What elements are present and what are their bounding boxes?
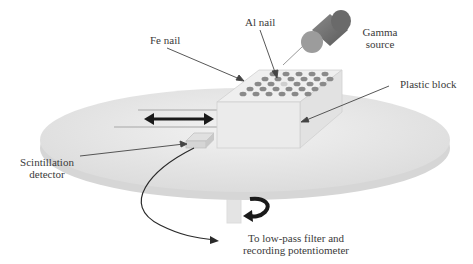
label-scintillation-detector: Scintillation detector [16, 156, 78, 180]
fe-nail [305, 92, 312, 97]
label-output-line1: To low-pass filter and [240, 232, 352, 244]
label-output: To low-pass filter and recording potenti… [240, 232, 352, 256]
rotation-arrow-icon [243, 199, 268, 222]
label-output-line2: recording potentiometer [240, 244, 352, 256]
label-gamma-source-line2: source [355, 38, 405, 50]
fe-nail [312, 87, 319, 92]
fe-nail [288, 77, 295, 82]
label-gamma-source: Gamma source [355, 26, 405, 50]
label-plastic-block: Plastic block [400, 78, 457, 90]
label-scintillation-line2: detector [16, 168, 78, 180]
fe-nail [309, 72, 316, 77]
fe-nail [253, 92, 260, 97]
fe-nail [262, 77, 269, 82]
fe-nail [279, 92, 286, 97]
fe-nail [275, 77, 282, 82]
fe-nail [299, 87, 306, 92]
fe-nail [255, 82, 262, 87]
fe-nail [322, 72, 329, 77]
fe-nail [307, 82, 314, 87]
fe-nail [266, 92, 273, 97]
label-scintillation-line1: Scintillation [16, 156, 78, 168]
label-gamma-source-line1: Gamma [355, 26, 405, 38]
fe-nail [314, 77, 321, 82]
al-nail [281, 82, 288, 87]
fe-nail [260, 87, 267, 92]
label-al-nail: Al nail [245, 16, 275, 28]
cable-arrowhead [210, 236, 219, 244]
fe-nail [296, 72, 303, 77]
fe-nail [286, 87, 293, 92]
fe-nail [327, 77, 334, 82]
fe-nail [273, 87, 280, 92]
gamma-source-icon [283, 10, 351, 65]
fe-nail [320, 82, 327, 87]
fe-nail [301, 77, 308, 82]
fe-nail [268, 82, 275, 87]
fe-nail [240, 92, 247, 97]
scintillation-detector [186, 141, 206, 148]
fe-nail [283, 72, 290, 77]
label-fe-nail: Fe nail [150, 34, 180, 46]
fe-nail [292, 92, 299, 97]
fe-nail [247, 87, 254, 92]
plastic-block-front [217, 102, 300, 148]
fe-nail [294, 82, 301, 87]
